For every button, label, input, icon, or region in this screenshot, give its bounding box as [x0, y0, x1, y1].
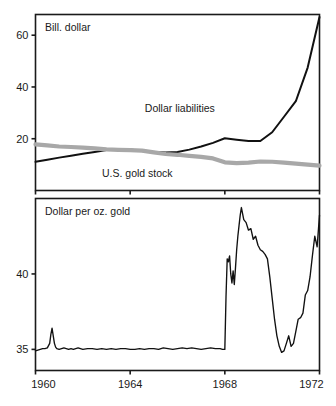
- x-tick-label: 1960: [31, 378, 55, 390]
- y-tick-label: 60: [16, 29, 28, 41]
- series-label-us-gold-stock: U.S. gold stock: [102, 167, 173, 179]
- top-panel-title: Bill. dollar: [45, 21, 91, 33]
- y-tick-label: 40: [16, 268, 28, 280]
- gold-dollar-figure: 204060 Bill. dollar Dollar liabilities U…: [0, 0, 336, 406]
- x-tick-label: 1968: [213, 378, 237, 390]
- x-tick-label: 1972: [299, 378, 323, 390]
- series-label-dollar-liabilities: Dollar liabilities: [145, 102, 215, 114]
- bottom-panel-title: Dollar per oz. gold: [45, 205, 130, 217]
- y-tick-label: 20: [16, 133, 28, 145]
- x-tick-label: 1964: [118, 378, 142, 390]
- y-tick-label: 35: [16, 343, 28, 355]
- y-tick-label: 40: [16, 81, 28, 93]
